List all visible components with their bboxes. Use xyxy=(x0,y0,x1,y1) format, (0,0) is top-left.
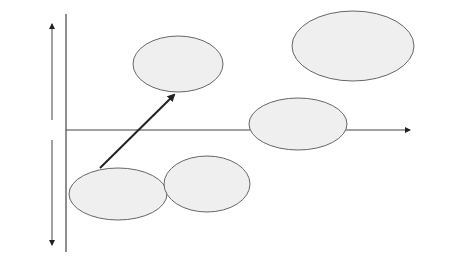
diagram-canvas xyxy=(0,0,450,262)
edge-reorganising-highend xyxy=(100,95,174,168)
node-reorganising xyxy=(69,168,167,220)
node-localised xyxy=(164,156,250,212)
node-firm xyxy=(292,11,414,81)
node-highend xyxy=(133,36,223,92)
node-eco xyxy=(249,98,347,150)
